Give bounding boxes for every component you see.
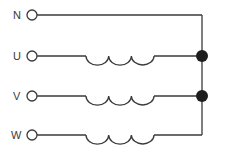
terminal-row-w: W <box>11 129 202 144</box>
junction-node-icon <box>196 90 208 102</box>
terminal-row-u: U <box>13 50 202 65</box>
inductor-coil-icon <box>86 56 154 65</box>
terminal-v-circle <box>27 91 37 101</box>
inductor-coil-icon <box>86 96 154 105</box>
terminal-row-n: N <box>13 9 202 21</box>
terminal-label-w: W <box>11 129 22 141</box>
terminal-label-n: N <box>13 9 21 21</box>
terminal-n-circle <box>27 10 37 20</box>
inductor-coil-icon <box>86 135 154 144</box>
terminal-w-circle <box>27 130 37 140</box>
junction-node-icon <box>196 50 208 62</box>
terminal-u-circle <box>27 51 37 61</box>
terminal-label-v: V <box>13 90 21 102</box>
winding-diagram: N U V W <box>0 0 226 157</box>
terminal-row-v: V <box>13 90 202 105</box>
terminal-label-u: U <box>13 50 21 62</box>
